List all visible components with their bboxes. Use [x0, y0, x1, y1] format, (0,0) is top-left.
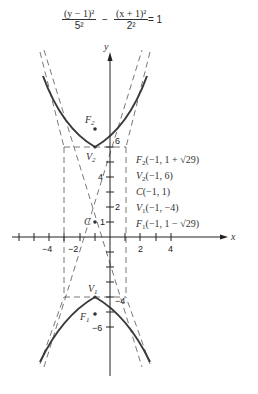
focus-f1-point: [93, 312, 97, 316]
y-tick-2: 2: [115, 202, 120, 212]
asymptote-outer-right-top: [126, 52, 150, 147]
x-axis: [12, 233, 228, 241]
y-tick-1: 1: [100, 217, 105, 227]
y-tick-neg6: −6: [92, 323, 102, 333]
f1-label: F1: [79, 311, 90, 324]
info-f2: F2(−1, 1 + √29): [135, 154, 199, 167]
y-axis-arrow-icon: [108, 52, 113, 61]
hyperbola-graph: x y −4 −2 2 4 6 4 2 1 −4 −6 F2 V2 C V1 F…: [0, 0, 258, 394]
focus-f2-point: [93, 127, 97, 131]
hyperbola-upper-branch: [43, 76, 147, 147]
x-axis-arrow-icon: [220, 235, 228, 240]
center-c-point: [93, 220, 97, 224]
x-tick-neg4: −4: [42, 244, 52, 254]
info-v2: V2(−1, 6): [136, 170, 173, 183]
y-axis: [106, 52, 114, 376]
c-label: C: [84, 216, 91, 227]
x-axis-label: x: [230, 231, 236, 242]
y-tick-6: 6: [115, 136, 120, 146]
info-f1: F1(−1, 1 − √29): [135, 218, 199, 231]
v2-label: V2: [86, 151, 96, 164]
info-v1: V1(−1, −4): [136, 202, 179, 215]
asymptote-outer-left-top: [40, 52, 64, 147]
y-tick-4: 4: [98, 172, 103, 182]
v1-label: V1: [88, 283, 98, 296]
y-axis-label: y: [103, 41, 109, 52]
y-tick-neg4: −4: [115, 296, 125, 306]
x-tick-neg2: −2: [68, 244, 78, 254]
coordinates-list: F2(−1, 1 + √29) V2(−1, 6) C(−1, 1) V1(−1…: [135, 154, 199, 231]
x-tick-2: 2: [138, 244, 143, 254]
asymptotes: [40, 50, 150, 367]
info-c: C(−1, 1): [136, 186, 170, 198]
f2-label: F2: [84, 114, 95, 127]
x-tick-4: 4: [168, 244, 173, 254]
vertex-v2-point: [93, 145, 96, 148]
